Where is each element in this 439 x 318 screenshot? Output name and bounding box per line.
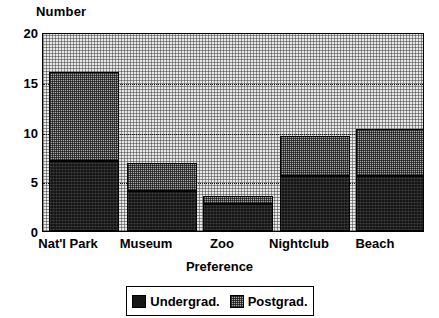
legend-label-postgrad: Postgrad. (248, 294, 308, 309)
bar-segment-undergrad[interactable] (203, 204, 273, 231)
bar-beach[interactable] (356, 129, 424, 231)
y-tick-label: 5 (4, 176, 38, 189)
legend-label-undergrad: Undergrad. (150, 294, 219, 309)
bar-segment-postgrad[interactable] (280, 136, 350, 176)
bar-segment-undergrad[interactable] (49, 161, 119, 231)
bar-nightclub[interactable] (280, 136, 350, 231)
x-tick-label-beach: Beach (320, 236, 430, 251)
y-tick-label: 20 (4, 27, 38, 40)
gray-hatched-swatch-icon (230, 295, 244, 308)
bar-museum[interactable] (127, 163, 197, 231)
bar-segment-postgrad[interactable] (203, 196, 273, 204)
bar-natl-park[interactable] (49, 72, 119, 231)
plot-area (42, 33, 424, 232)
y-tick-label: 15 (4, 77, 38, 90)
bar-segment-undergrad[interactable] (127, 191, 197, 231)
bar-segment-postgrad[interactable] (127, 163, 197, 191)
legend-item-postgrad[interactable]: Postgrad. (230, 294, 308, 309)
bar-segment-undergrad[interactable] (356, 176, 424, 231)
y-tick-label: 10 (4, 127, 38, 140)
y-axis-title: Number (36, 4, 86, 19)
x-axis-title: Preference (0, 259, 439, 274)
bar-segment-postgrad[interactable] (49, 72, 119, 162)
chart-legend: Undergrad. Postgrad. (126, 286, 314, 316)
bar-segment-postgrad[interactable] (356, 129, 424, 177)
legend-item-undergrad[interactable]: Undergrad. (132, 294, 219, 309)
bar-segment-undergrad[interactable] (280, 176, 350, 231)
bar-zoo[interactable] (203, 196, 273, 231)
black-solid-swatch-icon (132, 295, 146, 308)
